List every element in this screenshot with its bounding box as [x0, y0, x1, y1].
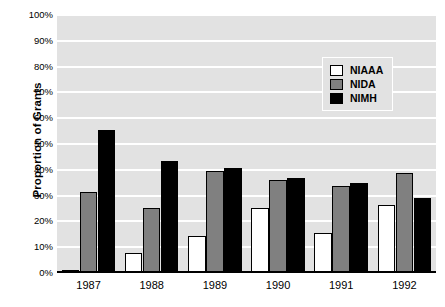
- y-axis-tick-label: 100%: [7, 9, 53, 20]
- legend-item-label: NIMH: [350, 92, 377, 104]
- x-axis-tick-label: 1988: [117, 279, 187, 291]
- bar-NIMH-1988[interactable]: [161, 161, 179, 272]
- bar-NIAAA-1988[interactable]: [125, 253, 143, 272]
- bar-group-1991: [310, 14, 373, 272]
- x-axis-tick-label: 1990: [243, 279, 313, 291]
- bar-NIMH-1987[interactable]: [98, 130, 116, 272]
- y-axis-tick-label: 70%: [7, 86, 53, 97]
- bar-NIAAA-1990[interactable]: [251, 208, 269, 273]
- x-axis-tick-label: 1989: [180, 279, 250, 291]
- bar-NIDA-1991[interactable]: [332, 186, 350, 272]
- bar-group-1990: [247, 14, 310, 272]
- legend-item-NIAAA[interactable]: NIAAA: [330, 63, 383, 77]
- bar-NIMH-1990[interactable]: [287, 178, 305, 272]
- bar-NIAAA-1992[interactable]: [378, 205, 396, 272]
- y-axis-tick-label: 0%: [7, 267, 53, 278]
- legend: NIAAANIDANIMH: [322, 57, 393, 111]
- bar-group-1988: [120, 14, 183, 272]
- bar-NIDA-1989[interactable]: [206, 171, 224, 272]
- legend-swatch-icon: [330, 79, 343, 90]
- y-axis-tick-label: 90%: [7, 34, 53, 45]
- bar-NIDA-1988[interactable]: [143, 208, 161, 273]
- legend-item-label: NIDA: [350, 78, 376, 90]
- bars-layer: [57, 14, 436, 272]
- bar-NIDA-1987[interactable]: [80, 192, 98, 272]
- bar-NIAAA-1987[interactable]: [62, 270, 80, 272]
- x-axis-tick-label: 1991: [306, 279, 376, 291]
- bar-NIMH-1992[interactable]: [414, 198, 432, 272]
- y-axis-tick-label: 40%: [7, 163, 53, 174]
- x-axis-tick-label: 1987: [54, 279, 124, 291]
- legend-item-NIMH[interactable]: NIMH: [330, 91, 383, 105]
- y-axis-tick-label: 20%: [7, 215, 53, 226]
- bar-NIMH-1991[interactable]: [350, 183, 368, 272]
- y-axis-tick-label: 60%: [7, 112, 53, 123]
- x-axis-tick-label: 1992: [369, 279, 439, 291]
- bar-group-1992: [373, 14, 436, 272]
- legend-swatch-icon: [330, 93, 343, 104]
- bar-group-1987: [57, 14, 120, 272]
- bar-NIAAA-1989[interactable]: [188, 236, 206, 272]
- y-axis-tick-label: 50%: [7, 138, 53, 149]
- bar-NIAAA-1991[interactable]: [314, 233, 332, 272]
- bar-NIMH-1989[interactable]: [224, 168, 242, 272]
- legend-item-label: NIAAA: [350, 64, 383, 76]
- y-axis-tick-label: 10%: [7, 241, 53, 252]
- y-axis-tick-label: 30%: [7, 189, 53, 200]
- bar-chart: Proportion of Grants 0%10%20%30%40%50%60…: [0, 0, 445, 307]
- legend-item-NIDA[interactable]: NIDA: [330, 77, 383, 91]
- bar-NIDA-1992[interactable]: [396, 173, 414, 272]
- y-axis-tick-label: 80%: [7, 60, 53, 71]
- bar-NIDA-1990[interactable]: [269, 180, 287, 272]
- bar-group-1989: [183, 14, 246, 272]
- legend-swatch-icon: [330, 65, 343, 76]
